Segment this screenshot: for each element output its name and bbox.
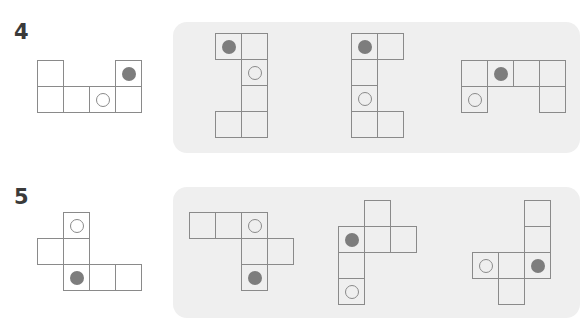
net-cell: [461, 60, 488, 87]
net-cell: [338, 278, 365, 305]
net-cell: [89, 264, 116, 291]
net-cell: [63, 86, 90, 113]
net-cell: [267, 238, 294, 265]
hollow-circle-icon: [468, 93, 482, 107]
net-cell: [498, 278, 525, 305]
net-cell: [241, 33, 268, 60]
net-cell: [241, 238, 268, 265]
net-cell: [351, 33, 378, 60]
net-cell: [215, 212, 242, 239]
net-cell: [524, 252, 551, 279]
net-cell: [63, 238, 90, 265]
net-cell: [215, 111, 242, 138]
net-cell: [241, 85, 268, 112]
filled-circle-icon: [345, 233, 359, 247]
net-cell: [338, 252, 365, 279]
hollow-circle-icon: [479, 259, 493, 273]
net-cell: [364, 200, 391, 227]
hollow-circle-icon: [248, 219, 262, 233]
hollow-circle-icon: [358, 92, 372, 106]
net-cell: [37, 60, 64, 87]
net-cell: [338, 226, 365, 253]
filled-circle-icon: [494, 67, 508, 81]
net-cell: [37, 238, 64, 265]
net-cell: [487, 60, 514, 87]
net-cell: [89, 86, 116, 113]
filled-circle-icon: [222, 40, 236, 54]
net-cell: [241, 264, 268, 291]
net-cell: [37, 86, 64, 113]
net-cell: [472, 252, 499, 279]
net-cell: [524, 200, 551, 227]
net-cell: [351, 111, 378, 138]
hollow-circle-icon: [248, 66, 262, 80]
net-cell: [364, 226, 391, 253]
net-cell: [189, 212, 216, 239]
hollow-circle-icon: [345, 285, 359, 299]
hollow-circle-icon: [70, 219, 84, 233]
net-cell: [351, 59, 378, 86]
filled-circle-icon: [122, 67, 136, 81]
filled-circle-icon: [248, 271, 262, 285]
filled-circle-icon: [531, 259, 545, 273]
net-cell: [377, 33, 404, 60]
net-cell: [498, 252, 525, 279]
net-cell: [115, 264, 142, 291]
net-cell: [539, 60, 566, 87]
filled-circle-icon: [70, 271, 84, 285]
net-cell: [513, 60, 540, 87]
net-cell: [63, 212, 90, 239]
net-cell: [539, 86, 566, 113]
net-cell: [115, 86, 142, 113]
net-cell: [115, 60, 142, 87]
hollow-circle-icon: [96, 93, 110, 107]
problem-number: 4: [14, 22, 29, 43]
filled-circle-icon: [358, 40, 372, 54]
net-cell: [241, 111, 268, 138]
net-cell: [63, 264, 90, 291]
net-cell: [241, 59, 268, 86]
net-cell: [524, 226, 551, 253]
problem-number: 5: [14, 187, 29, 208]
net-cell: [351, 85, 378, 112]
net-cell: [461, 86, 488, 113]
net-cell: [241, 212, 268, 239]
net-cell: [377, 111, 404, 138]
net-cell: [390, 226, 417, 253]
net-cell: [215, 33, 242, 60]
